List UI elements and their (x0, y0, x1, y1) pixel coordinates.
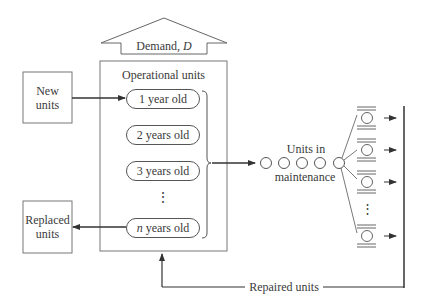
demand-label: Demand, D (121, 39, 207, 53)
replaced-units-line2: units (23, 227, 72, 241)
replaced-units-line1: Replaced (23, 213, 72, 227)
operational-brace (202, 91, 211, 238)
dispatch-lines (341, 115, 357, 233)
age-ellipsis: ⋮ (150, 191, 176, 205)
age-pill-1: 1 year old (126, 89, 200, 109)
new-units-line2: units (23, 98, 72, 112)
replaced-units-label: Replaced units (23, 213, 72, 241)
server-4 (357, 225, 376, 247)
demand-label-text: Demand, (136, 39, 183, 53)
age-pill-n: n years old (126, 218, 200, 238)
maintenance-label-top: Units in (286, 142, 326, 156)
server-1 (357, 107, 376, 129)
repair-servers (357, 107, 376, 247)
age-pill-3: 3 years old (126, 161, 200, 181)
age-n-text: years old (143, 221, 190, 235)
repaired-units-label: Repaired units (246, 280, 322, 294)
new-units-label: New units (23, 84, 72, 112)
server-output-arrows (384, 118, 396, 236)
diagram-lines (0, 0, 425, 304)
operational-units-title: Operational units (100, 68, 227, 82)
age-pill-2: 2 years old (126, 125, 200, 145)
maintenance-queue (261, 158, 345, 169)
maintenance-label-bottom: maintenance (268, 170, 342, 184)
new-units-line1: New (23, 84, 72, 98)
demand-variable: D (183, 39, 192, 53)
server-ellipsis: ⋮ (357, 202, 377, 216)
server-3 (357, 171, 376, 193)
server-2 (357, 139, 376, 161)
